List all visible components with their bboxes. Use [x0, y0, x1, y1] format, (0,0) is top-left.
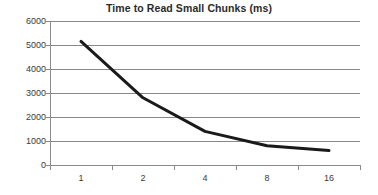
x-axis-tick-mark: [236, 166, 237, 170]
series-line-path: [81, 41, 329, 150]
x-axis-tick-label: 1: [66, 174, 96, 183]
chart-title: Time to Read Small Chunks (ms): [0, 2, 378, 14]
y-axis-tick-label: 6000: [6, 17, 46, 26]
x-axis-line: [50, 165, 361, 166]
plot-area: [50, 21, 360, 165]
x-axis-tick-label: 8: [252, 174, 282, 183]
x-axis-tick-label: 4: [190, 174, 220, 183]
y-axis-tick-label: 4000: [6, 65, 46, 74]
x-axis-tick-label: 16: [314, 174, 344, 183]
series-line-chart: [50, 21, 360, 165]
y-axis-tick-label: 1000: [6, 137, 46, 146]
x-axis-tick-mark: [112, 166, 113, 170]
x-axis-tick-mark: [298, 166, 299, 170]
y-axis-tick-label: 5000: [6, 41, 46, 50]
y-axis-tick-label: 0: [6, 161, 46, 170]
y-axis-tick-label: 3000: [6, 89, 46, 98]
x-axis-tick-mark: [174, 166, 175, 170]
x-axis-tick-mark: [360, 166, 361, 170]
x-axis-tick-mark: [50, 166, 51, 170]
y-axis-tick-label: 2000: [6, 113, 46, 122]
x-axis-tick-label: 2: [128, 174, 158, 183]
chart-container: Time to Read Small Chunks (ms) 010002000…: [0, 0, 378, 195]
